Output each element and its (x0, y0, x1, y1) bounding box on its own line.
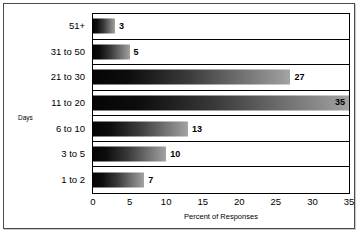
bar-group[interactable]: 10 (93, 147, 180, 162)
bar[interactable] (93, 147, 166, 162)
bar-value-label: 5 (134, 47, 139, 56)
bar-group[interactable]: 3 (93, 19, 124, 34)
chart-row: 35 (93, 91, 349, 117)
chart-row: 7 (93, 167, 349, 193)
bar-group[interactable]: 13 (93, 121, 202, 136)
x-tick-label: 0 (90, 196, 95, 207)
x-tick-label: 25 (271, 196, 282, 207)
bar[interactable]: 35 (93, 95, 349, 110)
x-tick-label: 30 (307, 196, 318, 207)
bar-value-label: 35 (335, 98, 345, 107)
bar-group[interactable]: 5 (93, 44, 139, 59)
bar-value-label: 3 (119, 22, 124, 31)
bar[interactable] (93, 173, 144, 188)
category-label: 6 to 10 (4, 115, 89, 141)
category-label: 3 to 5 (4, 141, 89, 167)
bar[interactable] (93, 121, 188, 136)
bar-group[interactable]: 27 (93, 70, 305, 85)
x-tick-label: 15 (197, 196, 208, 207)
chart-row: 27 (93, 65, 349, 91)
plot-area: 35273513107 (92, 13, 350, 194)
x-tick-label: 20 (234, 196, 245, 207)
bar-value-label: 27 (294, 73, 304, 82)
bar-value-label: 10 (170, 150, 180, 159)
bar-value-label: 7 (148, 176, 153, 185)
bar[interactable] (93, 70, 290, 85)
bar-value-label: 13 (192, 124, 202, 133)
category-label: 21 to 30 (4, 64, 89, 90)
bar-group[interactable]: 35 (93, 95, 349, 110)
chart-row: 10 (93, 142, 349, 168)
category-label: 51+ (4, 13, 89, 39)
chart-row: 3 (93, 14, 349, 40)
chart-row: 5 (93, 40, 349, 66)
bar-group[interactable]: 7 (93, 173, 153, 188)
chart-frame: 51+31 to 5021 to 3011 to 206 to 103 to 5… (3, 3, 355, 229)
category-label: 1 to 2 (4, 166, 89, 192)
x-tick-label: 5 (127, 196, 132, 207)
bar[interactable] (93, 19, 115, 34)
category-label: 31 to 50 (4, 39, 89, 65)
category-label: 11 to 20 (4, 90, 89, 116)
chart-row: 13 (93, 116, 349, 142)
x-tick-label: 35 (344, 196, 355, 207)
bar[interactable] (93, 44, 130, 59)
category-axis-labels: 51+31 to 5021 to 3011 to 206 to 103 to 5… (4, 13, 89, 194)
x-axis-title: Percent of Responses (92, 212, 350, 221)
x-axis-ticks: 05101520253035 (92, 196, 350, 208)
y-axis-title: Days (18, 114, 33, 121)
x-tick-label: 10 (161, 196, 172, 207)
